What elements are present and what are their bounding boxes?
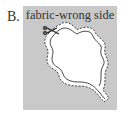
leaf-diagram [23,6,117,110]
figure-label: B. [7,9,20,25]
fabric-panel: fabric-wrong side [23,6,117,110]
